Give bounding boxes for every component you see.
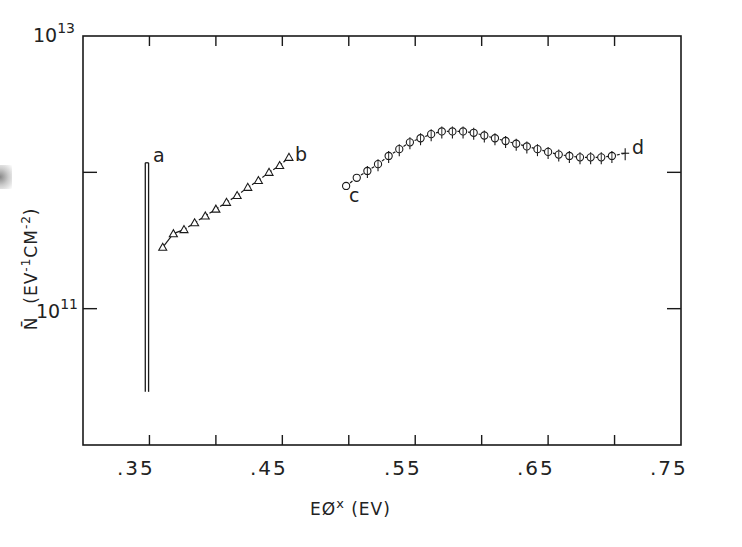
x-tick-label: .35: [117, 456, 155, 480]
chart-canvas: [0, 0, 742, 547]
series-c-d: [343, 126, 630, 189]
series-label-b: b: [295, 143, 307, 165]
x-tick-label: .45: [250, 456, 288, 480]
y-axis-label: N̄ (EV-1CM-2): [19, 169, 41, 369]
x-tick-label: .55: [384, 456, 422, 480]
series-label-c: c: [349, 184, 359, 206]
x-tick-label: .75: [650, 456, 688, 480]
y-tick-label-1e11: 1011: [36, 298, 78, 322]
x-tick-label: .65: [517, 456, 555, 480]
series-a: [145, 163, 148, 392]
x-axis-label: EØx (EV): [310, 496, 391, 519]
y-tick-label-1e13: 1013: [33, 22, 75, 46]
series-b: [159, 153, 293, 250]
series-label-d: d: [632, 136, 644, 158]
series-label-a: a: [153, 144, 165, 166]
plot-frame: [83, 36, 681, 445]
axis-ticks: [83, 36, 681, 445]
